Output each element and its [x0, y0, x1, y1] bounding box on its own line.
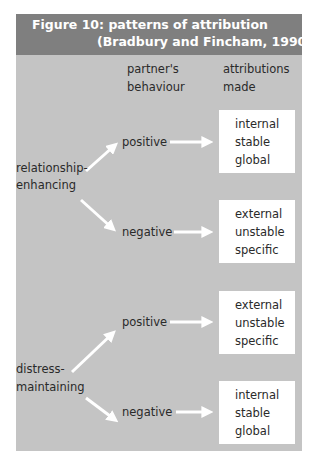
attribution-text: stable	[219, 133, 279, 151]
attribution-text: unstable	[219, 223, 285, 241]
group-label-distress-maintaining-1: distress-	[16, 361, 65, 377]
attribution-box: internal stable global	[219, 381, 295, 444]
behaviour-negative: negative	[122, 224, 172, 240]
behaviour-negative: negative	[122, 404, 172, 420]
group-label-relationship-enhancing-1: relationship-	[16, 160, 88, 176]
attribution-text: external	[219, 296, 285, 314]
attribution-text: global	[219, 151, 279, 169]
attribution-text: stable	[219, 404, 279, 422]
attribution-box: external unstable specific	[219, 200, 295, 263]
behaviour-positive: positive	[122, 134, 167, 150]
attribution-text: specific	[219, 241, 285, 259]
attribution-text: unstable	[219, 314, 285, 332]
attribution-text: external	[219, 205, 285, 223]
behaviour-positive: positive	[122, 314, 167, 330]
group-label-distress-maintaining-2: maintaining	[16, 379, 85, 395]
figure-panel: Figure 10: patterns of attribution (Brad…	[16, 14, 302, 451]
attribution-text: global	[219, 422, 279, 440]
attribution-text: internal	[219, 386, 279, 404]
attribution-text: specific	[219, 332, 285, 350]
attribution-text: internal	[219, 115, 279, 133]
attribution-box: internal stable global	[219, 110, 295, 173]
group-label-relationship-enhancing-2: enhancing	[16, 177, 76, 193]
arrow-icon	[86, 398, 114, 419]
arrow-icon	[72, 334, 112, 372]
attribution-box: external unstable specific	[219, 291, 295, 354]
arrow-icon	[81, 200, 112, 228]
arrow-icon	[86, 146, 114, 171]
